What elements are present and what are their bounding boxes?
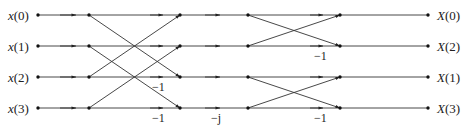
node xyxy=(338,13,341,16)
output-label-X2: X(2) xyxy=(437,40,460,53)
node xyxy=(178,13,181,16)
node xyxy=(87,75,90,78)
node xyxy=(246,13,249,16)
node xyxy=(36,75,39,78)
node xyxy=(87,13,90,16)
node xyxy=(426,44,429,47)
output-label-X0: X(0) xyxy=(437,9,460,22)
node xyxy=(426,106,429,109)
node xyxy=(87,44,90,47)
input-label-x3: x(3) xyxy=(8,102,29,115)
node xyxy=(246,44,249,47)
input-label-x0: x(0) xyxy=(8,9,29,22)
node xyxy=(338,44,341,47)
output-label-X1: X(1) xyxy=(437,71,460,84)
node xyxy=(36,106,39,109)
node xyxy=(178,75,181,78)
weight-label-stage1-row3: −1 xyxy=(152,112,165,124)
node xyxy=(426,13,429,16)
node xyxy=(36,44,39,47)
output-label-X3: X(3) xyxy=(437,102,460,115)
weight-label-stage2-row1: −1 xyxy=(314,50,327,62)
node xyxy=(178,106,181,109)
node xyxy=(36,13,39,16)
node xyxy=(338,106,341,109)
weight-label-twiddle-row3: −j xyxy=(211,112,221,124)
node xyxy=(338,75,341,78)
node xyxy=(246,106,249,109)
weight-label-stage1-row2: −1 xyxy=(152,81,165,93)
fft-flow-graph xyxy=(0,0,466,132)
node xyxy=(178,44,181,47)
node xyxy=(87,106,90,109)
input-label-x2: x(2) xyxy=(8,71,29,84)
input-label-x1: x(1) xyxy=(8,40,29,53)
weight-label-stage2-row3: −1 xyxy=(314,112,327,124)
node xyxy=(246,75,249,78)
node xyxy=(426,75,429,78)
